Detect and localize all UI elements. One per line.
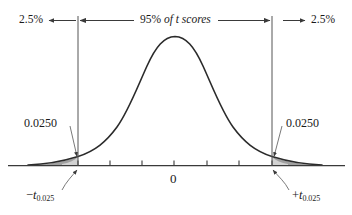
center-band-label: 95% of t scores <box>140 14 211 26</box>
zero-tick-label: 0 <box>170 172 177 185</box>
right-tail-percent-label: 2.5% <box>311 14 335 26</box>
right-critical-leader-curve <box>273 170 289 190</box>
right-critical-value-label: +t0.025 <box>292 189 320 203</box>
right-area-value-label: 0.0250 <box>286 117 319 129</box>
left-critical-subscript: 0.025 <box>37 194 55 203</box>
right-critical-sign: + <box>292 188 299 202</box>
left-critical-sign: − <box>26 188 33 202</box>
center-band-percent: 95% <box>140 13 161 25</box>
t-distribution-curve <box>28 37 322 166</box>
left-critical-leader-curve <box>62 170 77 190</box>
center-band-suffix: of t scores <box>164 13 211 25</box>
right-critical-subscript: 0.025 <box>303 194 321 203</box>
left-area-value-label: 0.0250 <box>24 117 57 129</box>
axis-ticks <box>78 161 272 166</box>
right-area-leader-line <box>274 126 282 157</box>
left-area-leader-line <box>70 126 77 157</box>
left-tail-percent-label: 2.5% <box>19 14 43 26</box>
left-critical-value-label: −t0.025 <box>26 189 54 203</box>
t-distribution-figure: 2.5% 95% of t scores 2.5% 0.0250 0.0250 … <box>0 0 352 215</box>
